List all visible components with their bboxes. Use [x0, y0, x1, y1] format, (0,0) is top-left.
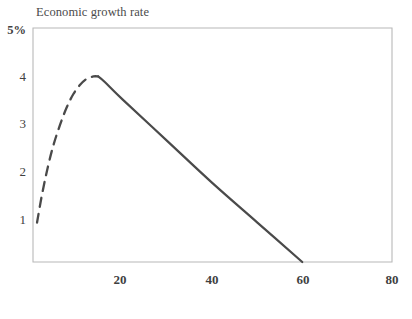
plot-frame	[33, 28, 392, 262]
series-declining-solid	[98, 76, 302, 262]
series-rising-dashed	[37, 76, 98, 222]
plot-area	[0, 0, 412, 319]
chart-figure: Economic growth rate 5% 4 3 2 1 20 40 60…	[0, 0, 412, 319]
